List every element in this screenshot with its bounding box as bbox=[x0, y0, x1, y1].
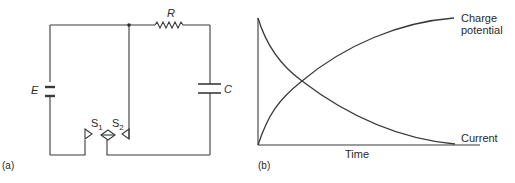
bottom-right-wire bbox=[107, 140, 210, 155]
circuit-diagram bbox=[45, 22, 221, 155]
switch2-label-sub: 2 bbox=[119, 123, 123, 132]
bottom-left-wire bbox=[50, 140, 85, 155]
panel-a-caption: (a) bbox=[2, 160, 14, 172]
figure-canvas bbox=[0, 0, 515, 183]
capacitor-label: C bbox=[224, 83, 232, 95]
switch2-label: S2 bbox=[112, 117, 124, 134]
x-axis-label: Time bbox=[345, 148, 369, 160]
panel-b-caption: (b) bbox=[258, 160, 270, 172]
switch1-label: S1 bbox=[91, 117, 103, 134]
charge-label-line2: potential bbox=[461, 24, 503, 36]
resistor-label: R bbox=[167, 7, 175, 19]
graph bbox=[258, 18, 480, 145]
resistor-icon bbox=[155, 22, 210, 28]
emf-label: E bbox=[31, 84, 38, 96]
switch1-label-sub: 1 bbox=[98, 123, 102, 132]
charge-label-line1: Charge bbox=[461, 12, 497, 24]
current-label: Current bbox=[461, 132, 498, 144]
charge-potential-curve bbox=[258, 18, 454, 145]
current-curve bbox=[258, 18, 455, 144]
